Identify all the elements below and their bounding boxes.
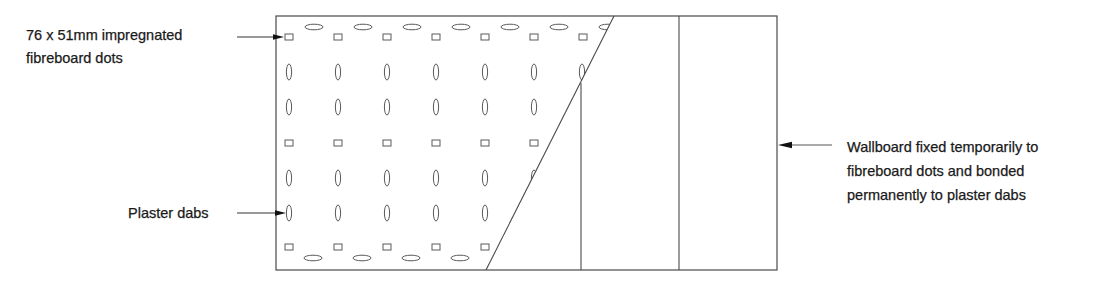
plaster-dabs-label-line-1: Plaster dabs (128, 202, 209, 225)
wall-outline (276, 16, 777, 270)
plaster-dabs-label: Plaster dabs (128, 202, 209, 225)
arrowhead-icon (275, 210, 286, 216)
wallboard-label-line-3: permanently to plaster dabs (847, 183, 1038, 207)
wallboard-cut-edge (486, 16, 614, 270)
top-horizontal-dabs (305, 24, 617, 30)
wallboard-sheets (486, 16, 679, 270)
wallboard-label: Wallboard fixed temporarily to fibreboar… (847, 135, 1038, 207)
fibreboard-dots-label-line-2: fibreboard dots (26, 47, 182, 70)
plaster-dabs-row-3 (286, 170, 536, 186)
top-fibreboard-dots (285, 34, 587, 40)
fibreboard-dots-label-line-1: 76 x 51mm impregnated (26, 24, 182, 47)
arrowhead-icon (273, 34, 284, 40)
plaster-dabs-row-2 (286, 99, 536, 115)
arrow-to-wallboard (778, 142, 832, 148)
leader-arrows (237, 34, 832, 216)
middle-fibreboard-dots (285, 140, 538, 146)
arrow-to-plaster-dab (237, 210, 286, 216)
exposed-wall-area (285, 24, 617, 261)
wallboard-label-line-2: fibreboard dots and bonded (847, 159, 1038, 183)
arrowhead-icon (778, 142, 792, 148)
bottom-horizontal-dabs (304, 255, 469, 261)
arrow-to-fibreboard-dot (237, 34, 284, 40)
bottom-fibreboard-dots (285, 244, 489, 250)
wallboard-label-line-1: Wallboard fixed temporarily to (847, 135, 1038, 159)
plaster-dabs-row-1 (286, 64, 584, 80)
fibreboard-dots-label: 76 x 51mm impregnated fibreboard dots (26, 24, 182, 70)
plaster-dabs-row-4 (286, 205, 487, 221)
